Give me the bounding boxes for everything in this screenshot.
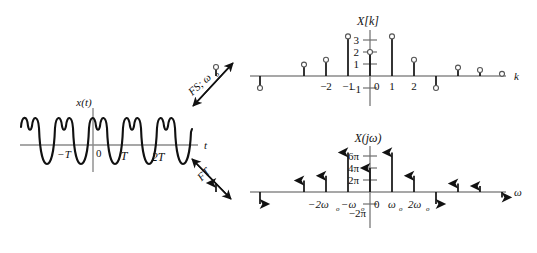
figure-root: x(t) t −T 0 T 2T FS; ω o [0, 0, 537, 253]
xw-ytick-label-2pi: 2π [348, 174, 360, 186]
xk-stem [500, 71, 505, 76]
xw-xtick-label-2w: 2ω o [408, 198, 430, 213]
tick-label-neg-T: −T [57, 148, 71, 160]
xw-xtick-label-zero: 0 [374, 198, 380, 210]
fourier-transform-plot: X(jω) ω 6π 4π 2π −2π −2ω o −ω o 0 ω o [248, 132, 533, 242]
xk-stem [412, 57, 417, 76]
xw-xtick-label-neg2w: −2ω o [308, 198, 340, 213]
xk-xtick-label-1: 1 [389, 80, 395, 92]
svg-text:−ω: −ω [341, 198, 356, 210]
xk-stem [434, 76, 439, 91]
xk-ytick-label-3: 3 [354, 34, 360, 46]
svg-text:ω: ω [388, 198, 396, 210]
xk-ytick-label-2: 2 [354, 46, 360, 58]
xw-ytick-label-6pi: 6π [348, 150, 360, 162]
xk-xtick-label-neg1: −1 [342, 80, 354, 92]
ft-operator-label: FT [194, 165, 213, 184]
xw-impulse-group [216, 152, 502, 204]
xk-stem-marker [324, 57, 329, 62]
svg-text:2ω: 2ω [408, 198, 422, 210]
svg-text:o: o [426, 205, 430, 213]
xk-xtick-label-2: 2 [411, 80, 417, 92]
ft-operator-label-group: FT [194, 165, 213, 184]
fourier-transform-panel: X(jω) ω 6π 4π 2π −2π −2ω o −ω o 0 ω o [248, 132, 533, 242]
signal-label: x(t) [75, 96, 92, 109]
xk-stem-marker [456, 65, 461, 70]
svg-text:o: o [336, 205, 340, 213]
tick-label-T: T [121, 149, 129, 163]
xw-title: X(jω) [353, 131, 381, 145]
xk-stem-marker [412, 57, 417, 62]
xk-ytick-label-1: 1 [354, 58, 360, 70]
xk-stem [346, 34, 351, 76]
omega-axis-label: ω [514, 186, 522, 198]
k-axis-label: k [514, 70, 520, 82]
xk-stem-marker [368, 50, 373, 55]
svg-text:−2ω: −2ω [308, 198, 329, 210]
xk-stem-marker [390, 34, 395, 39]
xk-stem-marker [500, 71, 505, 76]
xk-stem-marker [434, 86, 439, 91]
xk-title: X[k] [356, 14, 379, 28]
xk-stem-marker [478, 68, 483, 73]
svg-text:o: o [399, 205, 403, 213]
xk-stem [478, 68, 483, 77]
xk-stem [390, 34, 395, 76]
tick-label-2T: 2T [152, 150, 166, 164]
xk-stem-group [214, 34, 505, 91]
svg-text:o: o [361, 205, 365, 213]
xw-ytick-label-4pi: 4π [348, 162, 360, 174]
fourier-series-plot: X[k] k 3 2 1 −1 −2 −1 0 1 2 [248, 14, 533, 114]
waveform-path-group [21, 118, 192, 164]
tick-label-zero: 0 [96, 147, 102, 159]
fourier-series-panel: X[k] k 3 2 1 −1 −2 −1 0 1 2 [248, 14, 533, 114]
xk-stem [368, 50, 373, 77]
xk-stem [456, 65, 461, 76]
xk-stem [302, 62, 307, 76]
xk-xtick-label-zero: 0 [374, 80, 380, 92]
xk-stem-marker [258, 86, 263, 91]
xk-stem-marker [346, 34, 351, 39]
xk-stem-marker [214, 65, 219, 70]
fs-operator-label: FS; ω [185, 71, 214, 98]
xk-stem-marker [302, 62, 307, 67]
waveform-path [21, 118, 192, 164]
xk-xtick-label-neg2: −2 [320, 80, 332, 92]
xk-stem [324, 57, 329, 76]
xw-xtick-label-w: ω o [388, 198, 403, 213]
t-axis-label: t [204, 139, 208, 151]
xk-stem [258, 76, 263, 91]
